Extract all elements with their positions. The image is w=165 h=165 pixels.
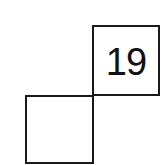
- empty-cell: [25, 95, 94, 164]
- numbered-cell: 19: [92, 25, 160, 96]
- cell-number: 19: [106, 41, 146, 81]
